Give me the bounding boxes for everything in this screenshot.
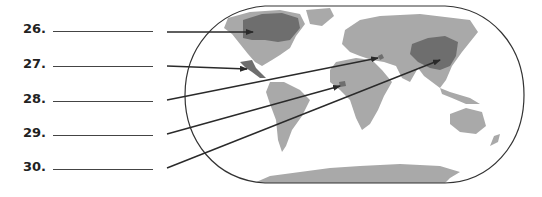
country-canada bbox=[243, 13, 300, 42]
land-new-zealand bbox=[490, 134, 500, 146]
world-map bbox=[0, 0, 542, 197]
arrow-30 bbox=[167, 60, 440, 168]
land-australia bbox=[450, 108, 486, 134]
land-antarctica bbox=[254, 164, 460, 183]
land-africa bbox=[330, 58, 392, 130]
land-greenland bbox=[306, 8, 334, 26]
land-southeast-asia bbox=[440, 88, 480, 104]
country-nigeria bbox=[339, 81, 346, 87]
arrow-27 bbox=[167, 66, 247, 69]
land-group bbox=[224, 8, 500, 183]
land-south-america bbox=[266, 82, 310, 152]
